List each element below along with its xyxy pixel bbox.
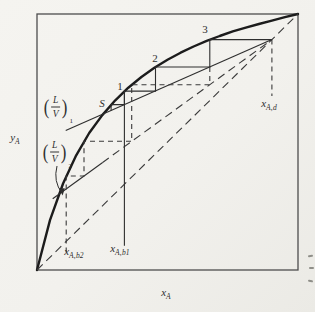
open-paren: ( [43, 143, 49, 162]
axis-label-x-subscript: A [166, 292, 171, 301]
label-LV1: (LV)1 [43, 96, 73, 119]
scanned-textbook-figure: 321SxA,dxA,b1xA,b2yAxA(LV)1(LV)2 [0, 0, 315, 312]
stage-label-2-text: 2 [152, 52, 158, 64]
label-x-Ad-subscript: A,d [266, 103, 277, 112]
axis-label-x: xA [161, 287, 171, 301]
stage-label-S-text: S [99, 97, 105, 109]
operating-line-2-dashed [102, 40, 272, 163]
stage-label-2: 2 [152, 53, 158, 64]
label-LV2-denominator: V [52, 153, 58, 164]
diagonal-45 [37, 14, 298, 270]
axis-label-y-subscript: A [15, 137, 20, 146]
label-x-Ab2-subscript: A,b2 [69, 251, 84, 260]
operating-line-2-solid [53, 163, 103, 199]
label-LV2-numerator: L [50, 141, 59, 153]
label-LV1-fraction: LV [51, 96, 60, 119]
stage-label-1: 1 [117, 81, 123, 92]
stage-label-3: 3 [202, 24, 208, 35]
stage-label-S: S [99, 98, 105, 109]
label-x-Ab1: xA,b1 [110, 243, 130, 257]
label-x-Ab2: xA,b2 [64, 246, 84, 260]
staircase-2-dashed [66, 67, 210, 255]
close-paren: ) [61, 143, 67, 162]
axis-label-y: yA [10, 132, 20, 146]
open-paren: ( [44, 98, 50, 117]
label-x-Ad: xA,d [261, 98, 277, 112]
label-LV2-fraction: LV [50, 141, 59, 164]
stage-label-3-text: 3 [202, 23, 208, 35]
cutoff-print-artifact [309, 267, 314, 269]
label-LV1-denominator: V [53, 108, 59, 119]
close-paren: ) [62, 98, 68, 117]
label-x-Ab1-subscript: A,b1 [115, 248, 130, 257]
label-LV1-numerator: L [51, 96, 60, 108]
label-LV2: (LV)2 [42, 141, 72, 164]
label-LV1-subscript: 1 [69, 118, 73, 125]
stage-label-1-text: 1 [117, 80, 123, 92]
label-LV2-subscript: 2 [68, 163, 72, 170]
